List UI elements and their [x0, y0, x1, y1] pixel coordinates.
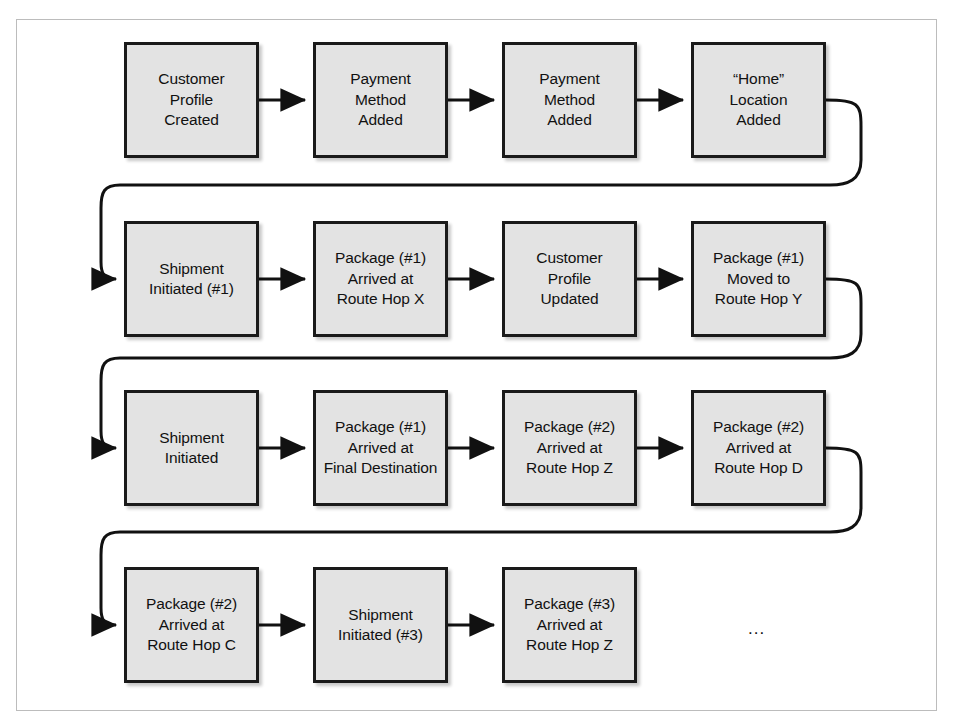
event-node-label: “Home” Location Added: [730, 69, 788, 130]
event-node[interactable]: Package (#2) Arrived at Route Hop Z: [502, 390, 637, 506]
event-node[interactable]: Payment Method Added: [502, 42, 637, 158]
event-node-label: Payment Method Added: [350, 69, 410, 130]
event-node[interactable]: Package (#1) Arrived at Final Destinatio…: [313, 390, 448, 506]
event-node[interactable]: Shipment Initiated (#1): [124, 221, 259, 337]
event-node[interactable]: Package (#3) Arrived at Route Hop Z: [502, 567, 637, 683]
event-node[interactable]: Package (#1) Arrived at Route Hop X: [313, 221, 448, 337]
event-node-label: Customer Profile Created: [158, 69, 224, 130]
event-node-label: Package (#2) Arrived at Route Hop C: [146, 594, 237, 655]
event-node-label: Shipment Initiated: [159, 428, 224, 469]
event-node-label: Package (#1) Moved to Route Hop Y: [713, 248, 804, 309]
event-node[interactable]: Package (#2) Arrived at Route Hop D: [691, 390, 826, 506]
event-node-label: Package (#2) Arrived at Route Hop D: [713, 417, 804, 478]
continuation-ellipsis: ...: [748, 620, 765, 637]
event-node-label: Package (#1) Arrived at Route Hop X: [335, 248, 426, 309]
event-node[interactable]: Customer Profile Updated: [502, 221, 637, 337]
flow-diagram-figure: Customer Profile Created Payment Method …: [0, 0, 959, 722]
event-node-label: Shipment Initiated (#3): [338, 605, 423, 646]
event-node[interactable]: “Home” Location Added: [691, 42, 826, 158]
event-node[interactable]: Package (#2) Arrived at Route Hop C: [124, 567, 259, 683]
event-node[interactable]: Payment Method Added: [313, 42, 448, 158]
event-node[interactable]: Package (#1) Moved to Route Hop Y: [691, 221, 826, 337]
event-node[interactable]: Shipment Initiated: [124, 390, 259, 506]
event-node[interactable]: Customer Profile Created: [124, 42, 259, 158]
event-node-label: Package (#2) Arrived at Route Hop Z: [524, 417, 615, 478]
event-node-label: Package (#3) Arrived at Route Hop Z: [524, 594, 615, 655]
event-node-label: Payment Method Added: [539, 69, 599, 130]
event-node-label: Package (#1) Arrived at Final Destinatio…: [324, 417, 438, 478]
event-node[interactable]: Shipment Initiated (#3): [313, 567, 448, 683]
event-node-label: Customer Profile Updated: [536, 248, 602, 309]
event-node-label: Shipment Initiated (#1): [149, 259, 234, 300]
